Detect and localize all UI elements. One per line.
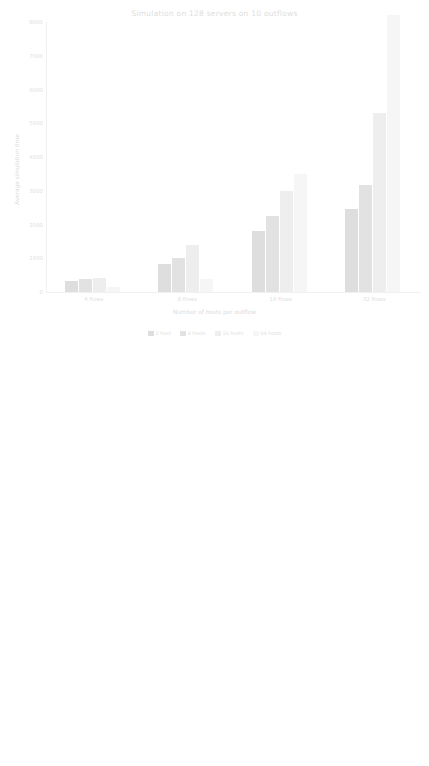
bar-chart-y-tick: 4000 [29,154,43,160]
bar-group [252,174,307,292]
bar [345,209,358,292]
bar-chart-x-tick: 8 flows [178,296,197,302]
bar [294,174,307,292]
legend-swatch-icon [253,331,259,336]
bar [186,245,199,292]
legend-item[interactable]: 4 hosts [180,330,206,336]
bar-chart-y-tick: 8000 [29,19,43,25]
bar-chart-y-tick: 6000 [29,87,43,93]
bar-chart-x-tick: 32 flows [363,296,385,302]
bar-chart-x-tick: 16 flows [270,296,292,302]
bar [266,216,279,292]
bar [93,278,106,292]
bar [200,279,213,292]
bar-chart-legend: 1 host4 hosts16 hosts64 hosts [0,330,429,336]
legend-label: 1 host [156,330,171,336]
bar [252,231,265,292]
legend-label: 64 hosts [261,330,282,336]
bar [79,279,92,292]
bar-chart-y-tick: 3000 [29,188,43,194]
legend-item[interactable]: 1 host [148,330,171,336]
legend-swatch-icon [215,331,221,336]
bar [158,264,171,292]
legend-swatch-icon [148,331,154,336]
bar-chart-y-tick: 7000 [29,53,43,59]
bar-group [65,278,120,292]
legend-label: 4 hosts [188,330,206,336]
bar-group [345,15,400,292]
bar [280,191,293,292]
bar-chart-y-tick: 0 [40,289,43,295]
legend-item[interactable]: 16 hosts [215,330,244,336]
bar [107,287,120,292]
bar-chart-figure: Simulation on 128 servers on 10 outflows… [0,0,429,383]
legend-swatch-icon [180,331,186,336]
bar-chart-y-tick: 5000 [29,120,43,126]
bar-chart-x-tick: 4 flows [84,296,103,302]
legend-label: 16 hosts [223,330,244,336]
bar-group [158,245,213,292]
bar-chart-plot-area: 0100020003000400050006000700080004 flows… [46,22,421,293]
legend-item[interactable]: 64 hosts [253,330,282,336]
line-chart-figure: Simulation on 128 servers on 10 outflows… [0,383,429,766]
bar-chart-x-axis-label: Number of hosts per outflow [0,309,429,315]
bar-chart-y-axis-label: Average simulation time [14,134,20,205]
bar-chart-y-tick: 1000 [29,255,43,261]
bar [387,15,400,292]
bar [172,258,185,292]
bar-chart-y-tick: 2000 [29,222,43,228]
bar [373,113,386,292]
bar [65,281,78,292]
bar [359,185,372,292]
